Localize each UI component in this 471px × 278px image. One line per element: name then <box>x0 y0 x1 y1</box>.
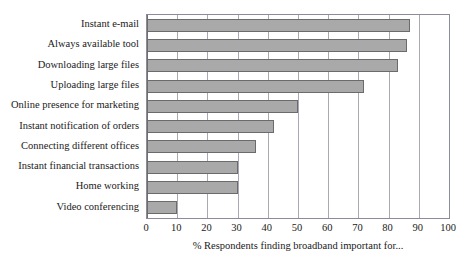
x-tick-label: 80 <box>382 221 393 235</box>
bar[interactable] <box>147 80 364 93</box>
category-label: Home working <box>76 176 139 196</box>
category-label: Video conferencing <box>57 197 139 217</box>
bar-row[interactable] <box>147 157 449 177</box>
x-tick-label: 70 <box>352 221 363 235</box>
x-axis-title: % Respondents finding broadband importan… <box>146 240 450 251</box>
bar[interactable] <box>147 181 238 194</box>
category-label: Always available tool <box>47 34 139 54</box>
bar-row[interactable] <box>147 96 449 116</box>
x-tick-label: 20 <box>201 221 212 235</box>
category-axis-labels: Instant e-mailAlways available toolDownl… <box>0 14 143 219</box>
bar-chart-figure: Instant e-mailAlways available toolDownl… <box>0 0 471 278</box>
x-tick-label: 40 <box>262 221 273 235</box>
bar[interactable] <box>147 59 398 72</box>
bar[interactable] <box>147 100 298 113</box>
bar-row[interactable] <box>147 15 449 35</box>
bar[interactable] <box>147 201 177 214</box>
bar-row[interactable] <box>147 137 449 157</box>
x-tick-label: 30 <box>231 221 242 235</box>
x-axis-tick-labels: 0102030405060708090100 <box>146 221 450 237</box>
category-label: Instant e-mail <box>81 14 139 34</box>
bar-row[interactable] <box>147 177 449 197</box>
x-tick-label: 0 <box>143 221 148 235</box>
bar-row[interactable] <box>147 76 449 96</box>
bar-row[interactable] <box>147 56 449 76</box>
x-tick-label: 10 <box>171 221 182 235</box>
bar[interactable] <box>147 19 410 32</box>
category-label: Instant notification of orders <box>19 116 139 136</box>
bar[interactable] <box>147 39 407 52</box>
category-label: Connecting different offices <box>21 136 139 156</box>
category-label: Instant financial transactions <box>18 156 139 176</box>
category-label: Online presence for marketing <box>11 95 139 115</box>
x-tick-label: 50 <box>292 221 303 235</box>
category-label: Uploading large files <box>51 75 139 95</box>
bar-row[interactable] <box>147 198 449 218</box>
x-tick-label: 90 <box>413 221 424 235</box>
bars-layer <box>147 15 449 218</box>
plot-area <box>146 14 450 219</box>
x-tick-label: 100 <box>440 221 456 235</box>
bar-row[interactable] <box>147 35 449 55</box>
bar[interactable] <box>147 140 256 153</box>
bar[interactable] <box>147 120 274 133</box>
bar[interactable] <box>147 161 238 174</box>
x-tick-label: 60 <box>322 221 333 235</box>
category-label: Downloading large files <box>38 55 139 75</box>
bar-row[interactable] <box>147 117 449 137</box>
